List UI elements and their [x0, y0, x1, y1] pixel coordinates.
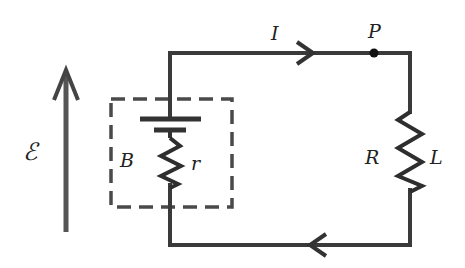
- emf-arrow-icon: [54, 70, 78, 232]
- point-label: P: [368, 22, 381, 41]
- internal-resistor-icon: [161, 138, 181, 188]
- junction-point-icon: [370, 49, 379, 58]
- load-resistance-label: R: [365, 148, 379, 167]
- current-label: I: [271, 24, 279, 43]
- inductance-label: L: [430, 148, 443, 167]
- circuit-drawing: [0, 0, 465, 268]
- battery-label: B: [120, 151, 134, 170]
- load-resistor-icon: [398, 112, 422, 192]
- circuit-diagram: ℰ I P B r R L: [0, 0, 465, 268]
- internal-resistance-label: r: [191, 154, 200, 173]
- battery-icon: [140, 119, 201, 138]
- emf-label: ℰ: [23, 140, 38, 164]
